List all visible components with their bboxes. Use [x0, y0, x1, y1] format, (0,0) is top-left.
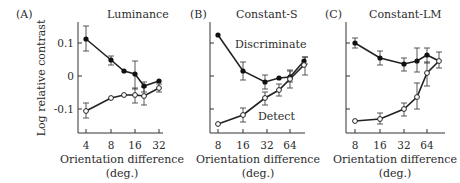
x-tick-label: 32: [397, 139, 410, 151]
x-axis-title: Orientation difference: [333, 153, 457, 166]
error-bars-detect: [83, 84, 162, 118]
y-tick-label: -0.1: [54, 103, 74, 115]
x-tick-label: 4: [83, 139, 90, 151]
x-axis-title: Orientation difference: [60, 153, 184, 166]
y-tick-label: 0.1: [57, 37, 74, 49]
panel-c-title: Constant-LM: [369, 8, 442, 21]
markers-detect: [84, 86, 162, 114]
panel-b-title: Constant-S: [236, 8, 298, 21]
y-axis-title: Log relative contrast: [35, 19, 48, 136]
x-tick-label: 8: [215, 139, 222, 151]
y-tick-label: 0: [67, 70, 74, 82]
annotation-detect: Detect: [258, 110, 295, 123]
panel-a: (A) Luminance Log relative contrast 0.1 …: [16, 8, 184, 180]
series-detect-line: [86, 88, 159, 111]
annotation-discriminate: Discriminate: [235, 38, 306, 51]
panel-a-title: Luminance: [107, 8, 169, 21]
x-tick-label: 16: [373, 139, 387, 151]
markers-detect: [353, 59, 442, 124]
error-bars-discriminate: [83, 26, 147, 92]
x-tick-label: 32: [260, 139, 273, 151]
markers-discriminate: [83, 36, 161, 88]
panel-b-label: (B): [190, 8, 207, 21]
x-tick-label: 8: [108, 139, 115, 151]
panel-a-label: (A): [16, 8, 33, 21]
x-tick-label: 8: [352, 139, 359, 151]
series-discriminate-line: [86, 39, 159, 86]
error-bars-discriminate: [240, 57, 308, 89]
panel-c-label: (C): [325, 8, 342, 21]
panel-c: (C) Constant-LM 8 16 32 64 Orientation d…: [325, 8, 457, 180]
x-tick-label: 16: [236, 139, 250, 151]
x-axis-title: Orientation difference: [196, 153, 320, 166]
x-tick-label: 16: [128, 139, 142, 151]
x-tick-label: 64: [283, 139, 297, 151]
series-detect-line: [355, 61, 439, 121]
panel-c-axes: [346, 22, 445, 133]
markers-discriminate: [352, 40, 429, 66]
figure: (A) Luminance Log relative contrast 0.1 …: [0, 0, 460, 183]
panel-a-axes: [78, 22, 163, 133]
panel-b: (B) Constant-S 8 16 32 64 Orientation di…: [190, 8, 320, 180]
x-tick-label: 32: [152, 139, 165, 151]
x-axis-title-unit: (deg.): [242, 167, 275, 180]
x-axis-title-unit: (deg.): [379, 167, 412, 180]
x-tick-label: 64: [420, 139, 434, 151]
x-axis-title-unit: (deg.): [106, 167, 139, 180]
